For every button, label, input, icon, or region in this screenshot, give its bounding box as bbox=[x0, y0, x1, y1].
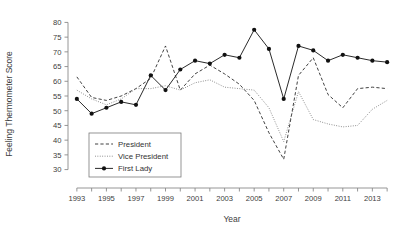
x-tick-label: 2009 bbox=[305, 194, 322, 203]
y-tick-label: 65 bbox=[53, 62, 61, 71]
x-axis: 1993199519971999200120032005200720092011… bbox=[68, 188, 387, 203]
x-tick-label: 1999 bbox=[157, 194, 174, 203]
data-point-marker bbox=[134, 103, 138, 107]
y-tick-label: 70 bbox=[53, 48, 61, 57]
legend-label-vice-president: Vice President bbox=[118, 152, 169, 161]
x-tick-label: 1993 bbox=[68, 194, 85, 203]
x-tick-label: 2005 bbox=[246, 194, 263, 203]
data-point-marker bbox=[119, 100, 123, 104]
data-point-marker bbox=[252, 28, 256, 32]
x-tick-label: 2007 bbox=[275, 194, 292, 203]
y-tick-label: 60 bbox=[53, 77, 61, 86]
legend-key-marker bbox=[102, 166, 106, 170]
data-point-marker bbox=[385, 60, 389, 64]
legend-label-president: President bbox=[118, 140, 152, 149]
data-point-marker bbox=[341, 53, 345, 57]
data-point-marker bbox=[104, 106, 108, 110]
data-point-marker bbox=[149, 73, 153, 77]
data-point-marker bbox=[163, 88, 167, 92]
y-axis-title: Feeling Thermometer Score bbox=[4, 51, 14, 157]
x-tick-label: 2003 bbox=[216, 194, 233, 203]
y-tick-label: 80 bbox=[53, 18, 61, 27]
y-axis: 3035404550556065707580 bbox=[53, 18, 68, 174]
x-axis-title: Year bbox=[223, 214, 240, 224]
data-point-marker bbox=[208, 62, 212, 66]
data-point-marker bbox=[296, 44, 300, 48]
data-point-marker bbox=[75, 97, 79, 101]
x-tick-label: 1995 bbox=[98, 194, 115, 203]
data-point-marker bbox=[355, 56, 359, 60]
series-line-first-lady bbox=[77, 30, 387, 114]
data-point-marker bbox=[311, 48, 315, 52]
y-tick-label: 45 bbox=[53, 121, 61, 130]
data-point-marker bbox=[370, 59, 374, 63]
data-point-marker bbox=[178, 67, 182, 71]
y-tick-label: 50 bbox=[53, 107, 61, 116]
data-point-marker bbox=[326, 59, 330, 63]
data-point-marker bbox=[267, 47, 271, 51]
y-tick-label: 40 bbox=[53, 136, 61, 145]
data-point-marker bbox=[282, 97, 286, 101]
x-tick-label: 2001 bbox=[187, 194, 204, 203]
data-point-marker bbox=[223, 53, 227, 57]
x-tick-label: 2011 bbox=[335, 194, 351, 203]
data-point-marker bbox=[237, 56, 241, 60]
y-tick-label: 30 bbox=[53, 165, 61, 174]
chart-legend: PresidentVice PresidentFirst Lady bbox=[89, 133, 181, 177]
data-point-marker bbox=[193, 59, 197, 63]
y-tick-label: 55 bbox=[53, 92, 61, 101]
legend-label-first-lady: First Lady bbox=[118, 164, 152, 173]
data-point-marker bbox=[90, 112, 94, 116]
y-tick-label: 35 bbox=[53, 151, 61, 160]
series-line-vice-president bbox=[77, 80, 387, 142]
y-tick-label: 75 bbox=[53, 33, 61, 42]
x-tick-label: 2013 bbox=[364, 194, 381, 203]
x-tick-label: 1997 bbox=[128, 194, 145, 203]
chart-container: 3035404550556065707580 19931995199719992… bbox=[0, 0, 408, 236]
line-chart-plot: 3035404550556065707580 19931995199719992… bbox=[0, 0, 408, 236]
